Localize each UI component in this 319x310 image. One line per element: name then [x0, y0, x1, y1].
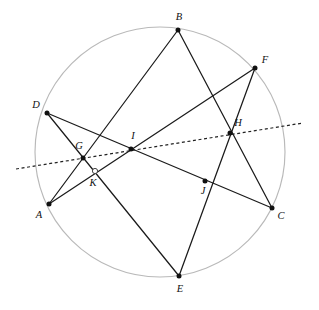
segments-layer — [47, 30, 272, 276]
segment-B-A — [49, 30, 178, 204]
point-G[interactable] — [81, 156, 86, 161]
dashed-line-layer — [16, 123, 303, 169]
point-label-A: A — [35, 209, 43, 220]
segment-B-C — [178, 30, 272, 208]
point-D[interactable] — [45, 111, 50, 116]
point-label-F: F — [261, 54, 269, 65]
radical-axis-dashed-line — [16, 123, 303, 169]
main-circle — [35, 27, 285, 277]
point-label-J: J — [201, 185, 207, 196]
point-labels-layer: ABCDEFGHIJK — [31, 11, 285, 294]
point-H[interactable] — [228, 131, 233, 136]
point-label-H: H — [233, 117, 243, 128]
point-label-C: C — [277, 210, 285, 221]
point-C[interactable] — [270, 206, 275, 211]
point-B[interactable] — [176, 28, 181, 33]
point-label-E: E — [176, 283, 184, 294]
point-label-B: B — [176, 11, 183, 22]
point-E[interactable] — [177, 274, 182, 279]
point-K[interactable] — [92, 168, 97, 173]
point-J[interactable] — [203, 179, 208, 184]
segment-A-F — [49, 68, 255, 204]
geometry-figure: ABCDEFGHIJK — [0, 0, 319, 310]
point-I[interactable] — [129, 147, 134, 152]
point-label-G: G — [75, 140, 83, 151]
point-label-D: D — [31, 99, 40, 110]
point-A[interactable] — [47, 202, 52, 207]
point-label-K: K — [88, 177, 97, 188]
circle-layer — [35, 27, 285, 277]
segment-D-E — [47, 113, 179, 276]
point-label-I: I — [130, 130, 135, 141]
point-F[interactable] — [253, 66, 258, 71]
geometry-canvas: ABCDEFGHIJK — [0, 0, 319, 310]
